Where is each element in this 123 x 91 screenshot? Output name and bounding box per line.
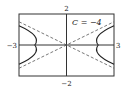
curve-constant-label: C = −4 (72, 18, 102, 27)
y-min-label: −2 (61, 80, 71, 88)
x-min-label: −3 (7, 42, 17, 50)
y-max-label: 2 (64, 5, 68, 13)
hyperbola-graph: 2 −2 −3 3 C = −4 (0, 0, 123, 91)
x-max-label: 3 (116, 42, 120, 50)
